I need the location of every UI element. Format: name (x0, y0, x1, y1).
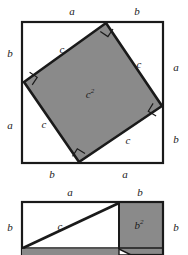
center-label-exponent: 2 (91, 87, 95, 95)
rect-b-squared-exponent: 2 (140, 218, 144, 226)
pythagorean-proof-figure: a b a b b a b a c c c c c2 (0, 0, 188, 255)
rect-label-left-b: b (7, 221, 13, 233)
label-hyp-bottom-right-c: c (126, 134, 131, 146)
rect-label-diagonal-c: c (58, 220, 63, 232)
label-left-b: b (7, 47, 13, 59)
rectangle-diagram: a b b b c b2 (7, 186, 179, 255)
label-top-b: b (134, 5, 140, 17)
label-hyp-top-left-c: c (60, 43, 65, 55)
label-left-a: a (7, 119, 13, 131)
figure-canvas: a b a b b a b a c c c c c2 (0, 0, 188, 255)
label-bottom-b: b (49, 168, 55, 180)
label-hyp-bottom-left-c: c (42, 118, 47, 130)
rect-label-top-b: b (137, 186, 143, 198)
label-right-a: a (173, 61, 179, 73)
tilted-square-diagram: a b a b b a b a c c c c c2 (7, 5, 179, 180)
rect-lower-shaded-strip (22, 249, 119, 255)
rect-shaded-b-squared (119, 202, 163, 255)
rect-label-right-b: b (173, 221, 179, 233)
label-hyp-top-right-c: c (137, 58, 142, 70)
label-top-a: a (69, 5, 75, 17)
label-bottom-a: a (122, 168, 128, 180)
rect-label-top-a: a (67, 186, 73, 198)
label-right-b: b (173, 133, 179, 145)
